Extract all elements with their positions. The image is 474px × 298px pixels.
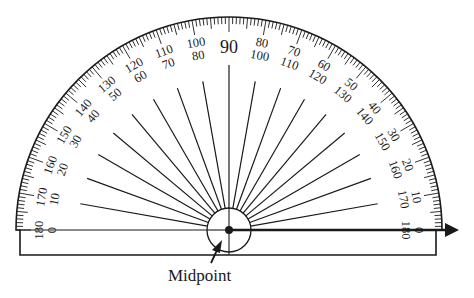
minor-tick: [116, 49, 120, 55]
minor-tick: [119, 47, 123, 53]
minor-tick: [338, 49, 342, 55]
minor-tick: [384, 90, 389, 95]
minor-tick: [170, 25, 172, 32]
inner-label: 170: [395, 189, 412, 210]
major-tick: [66, 93, 77, 103]
minor-tick: [419, 147, 425, 150]
major-tick: [92, 67, 102, 78]
minor-tick: [303, 31, 306, 38]
minor-tick: [258, 19, 259, 26]
minor-tick: [52, 111, 58, 115]
minor-tick: [18, 204, 25, 205]
minor-tick: [43, 127, 49, 130]
minor-tick: [30, 154, 37, 157]
mid-tick: [174, 24, 177, 35]
mid-tick: [412, 140, 422, 145]
minor-tick: [323, 40, 326, 46]
minor-tick: [369, 74, 374, 79]
minor-tick: [22, 178, 29, 180]
minor-tick: [28, 161, 35, 163]
major-tick: [19, 193, 34, 196]
minor-tick: [126, 44, 129, 50]
major-tick: [400, 124, 413, 132]
minor-tick: [24, 171, 31, 173]
inner-label: 20: [54, 161, 71, 178]
major-tick: [381, 93, 392, 103]
minor-tick: [367, 72, 372, 77]
minor-tick: [86, 72, 91, 77]
mid-tick: [17, 211, 28, 212]
minor-tick: [430, 182, 437, 184]
minor-tick: [203, 19, 204, 26]
minor-tick: [48, 117, 54, 121]
minor-tick: [196, 20, 197, 27]
minor-tick: [21, 182, 28, 184]
minor-tick: [25, 168, 32, 170]
minor-tick: [434, 208, 441, 209]
minor-tick: [426, 168, 433, 170]
minor-tick: [341, 51, 345, 57]
minor-tick: [382, 87, 387, 92]
minor-tick: [268, 21, 269, 28]
minor-tick: [38, 137, 44, 140]
minor-tick: [177, 23, 179, 30]
minor-tick: [39, 133, 45, 136]
minor-tick: [110, 53, 114, 59]
minor-tick: [344, 53, 348, 59]
mid-tick: [430, 211, 441, 212]
minor-tick: [101, 60, 105, 66]
minor-tick: [391, 99, 397, 103]
minor-tick: [421, 154, 428, 157]
major-tick: [424, 193, 439, 196]
minor-tick: [181, 22, 183, 29]
minor-tick: [272, 22, 273, 29]
minor-tick: [71, 87, 76, 92]
minor-tick: [427, 171, 434, 173]
minor-tick: [286, 25, 288, 32]
minor-tick: [356, 62, 360, 68]
minor-tick: [309, 34, 312, 40]
minor-tick: [406, 120, 412, 124]
minor-tick: [261, 20, 262, 27]
minor-tick: [26, 164, 33, 166]
minor-tick: [113, 51, 117, 57]
minor-tick: [163, 27, 165, 34]
minor-tick: [429, 178, 436, 180]
minor-tick: [400, 111, 406, 115]
minor-tick: [59, 102, 65, 106]
minor-tick: [160, 29, 162, 36]
minor-tick: [19, 197, 26, 198]
degree-spokes: [80, 65, 377, 226]
minor-tick: [68, 90, 73, 95]
minor-tick: [409, 127, 415, 130]
minor-tick: [430, 186, 437, 187]
minor-tick: [293, 27, 295, 34]
minor-tick: [411, 130, 417, 133]
minor-tick: [404, 117, 410, 121]
minor-tick: [84, 74, 89, 79]
inner-label: 70: [160, 55, 177, 72]
minor-tick: [73, 85, 78, 90]
mid-tick: [23, 175, 34, 178]
minor-tick: [329, 44, 332, 50]
minor-tick: [41, 130, 47, 133]
major-tick: [192, 20, 195, 35]
minor-tick: [61, 99, 67, 103]
minor-tick: [98, 62, 102, 68]
minor-tick: [32, 150, 38, 153]
minor-tick: [254, 19, 255, 26]
minor-tick: [21, 186, 28, 187]
minor-tick: [319, 39, 322, 45]
minor-tick: [364, 69, 369, 74]
minor-tick: [136, 39, 139, 45]
minor-tick: [414, 137, 420, 140]
minor-tick: [33, 147, 39, 150]
mid-tick: [424, 175, 435, 178]
minor-tick: [57, 105, 63, 109]
major-tick: [263, 20, 266, 35]
minor-tick: [188, 21, 189, 28]
minor-tick: [132, 40, 135, 46]
minor-tick: [296, 29, 298, 36]
inner-label: 100: [249, 47, 270, 64]
mid-tick: [36, 140, 46, 145]
